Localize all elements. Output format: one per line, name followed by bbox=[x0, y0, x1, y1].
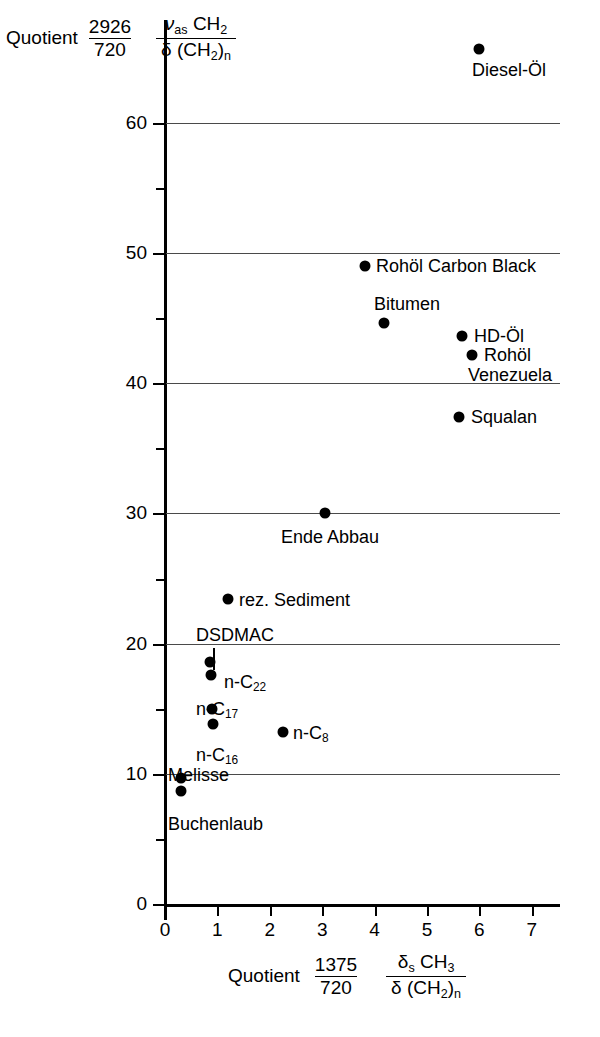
y-tick-major-40 bbox=[153, 383, 166, 385]
y-axis-symbol-numerator: νas CH2 bbox=[160, 14, 232, 38]
x-axis-denominator: 720 bbox=[315, 976, 357, 998]
y-axis-symbol-fraction: νas CH2 δ (CH2)n bbox=[156, 14, 236, 63]
point-label-rez-sediment: rez. Sediment bbox=[239, 590, 350, 610]
point-label-nc16-text: n-C bbox=[196, 745, 225, 765]
ch2-subscript: 2 bbox=[211, 48, 218, 62]
y-axis-number-fraction: 2926 720 bbox=[84, 17, 136, 60]
data-point bbox=[467, 349, 478, 360]
data-point bbox=[360, 261, 371, 272]
x-tick-2 bbox=[270, 904, 272, 916]
point-label-buchenlaub: Buchenlaub bbox=[168, 814, 263, 834]
point-label-bitumen: Bitumen bbox=[374, 294, 440, 314]
x-axis-number-fraction: 1375 720 bbox=[310, 955, 362, 998]
dsdmac-leader-line bbox=[213, 648, 215, 670]
data-point bbox=[277, 727, 288, 738]
ch2-open: (CH bbox=[407, 977, 441, 998]
point-label-squalan-text: Squalan bbox=[471, 407, 537, 427]
point-label-melisse: Melisse bbox=[168, 765, 229, 785]
data-point bbox=[319, 508, 330, 519]
point-label-nc8: n-C8 bbox=[293, 723, 329, 746]
x-axis-symbol-fraction: δs CH3 δ (CH2)n bbox=[386, 952, 466, 1001]
y-tick-minor-15 bbox=[156, 709, 166, 711]
ch-text: CH bbox=[420, 951, 447, 972]
y-tick-major-60 bbox=[153, 123, 166, 125]
x-tick-label-6: 6 bbox=[464, 919, 494, 941]
x-axis-line bbox=[164, 904, 560, 907]
x-axis-symbol-numerator: δs CH3 bbox=[393, 952, 460, 976]
ch-subscript: 2 bbox=[220, 23, 227, 37]
delta-symbol: δ bbox=[398, 951, 409, 972]
y-tick-minor-25 bbox=[156, 579, 166, 581]
s-subscript: s bbox=[408, 961, 414, 975]
point-label-nc22-text: n-C bbox=[224, 672, 253, 692]
n-subscript: n bbox=[454, 986, 461, 1000]
point-label-rez-sediment-text: rez. Sediment bbox=[239, 590, 350, 610]
point-label-rohoel-venezuela: Rohöl Venezuela bbox=[484, 345, 552, 385]
y-tick-major-30 bbox=[153, 513, 166, 515]
gridline-y-60 bbox=[165, 123, 560, 124]
point-label-nc8-text: n-C bbox=[293, 723, 322, 743]
point-label-rohoel-venezuela-line2: Venezuela bbox=[468, 365, 552, 385]
point-label-nc17: n-C17 bbox=[196, 699, 238, 722]
point-label-hd-oel: HD-Öl bbox=[474, 326, 524, 346]
point-label-nc22: n-C22 bbox=[224, 672, 266, 695]
data-point bbox=[453, 412, 464, 423]
y-tick-label-20: 20 bbox=[103, 633, 147, 655]
x-axis-quotient-word: Quotient bbox=[228, 965, 300, 987]
ch2-open: (CH bbox=[177, 39, 211, 60]
y-tick-minor-5 bbox=[156, 839, 166, 841]
delta-symbol: δ bbox=[391, 977, 402, 998]
point-label-nc22-subscript: 22 bbox=[253, 680, 266, 694]
point-label-diesel-text: Diesel-Öl bbox=[472, 60, 546, 80]
x-tick-0 bbox=[165, 904, 167, 916]
x-axis-title: Quotient 1375 720 δs CH3 δ (CH2)n bbox=[228, 952, 466, 1001]
x-tick-label-2: 2 bbox=[255, 919, 285, 941]
y-tick-label-60: 60 bbox=[103, 112, 147, 134]
y-tick-label-30: 30 bbox=[103, 502, 147, 524]
x-tick-3 bbox=[322, 904, 324, 916]
data-point bbox=[457, 331, 468, 342]
data-point bbox=[206, 669, 217, 680]
data-point bbox=[473, 43, 484, 54]
y-tick-major-10 bbox=[153, 774, 166, 776]
scatter-plot: Quotient 2926 720 νas CH2 δ (CH2)n Quoti… bbox=[0, 0, 600, 1037]
point-label-nc17-subscript: 17 bbox=[225, 707, 238, 721]
x-axis-numerator: 1375 bbox=[310, 955, 362, 976]
point-label-ende-abbau-text: Ende Abbau bbox=[281, 527, 379, 547]
ch-text: CH bbox=[193, 13, 220, 34]
n-subscript: n bbox=[224, 48, 231, 62]
x-tick-4 bbox=[375, 904, 377, 916]
nu-subscript: as bbox=[174, 23, 187, 37]
y-tick-label-0: 0 bbox=[103, 893, 147, 915]
x-tick-label-0: 0 bbox=[150, 919, 180, 941]
y-tick-label-40: 40 bbox=[103, 372, 147, 394]
x-tick-label-3: 3 bbox=[307, 919, 337, 941]
gridline-y-30 bbox=[165, 513, 560, 514]
x-tick-6 bbox=[479, 904, 481, 916]
point-label-diesel: Diesel-Öl bbox=[472, 60, 546, 80]
x-tick-5 bbox=[427, 904, 429, 916]
y-axis-line bbox=[164, 20, 167, 920]
point-label-hd-oel-text: HD-Öl bbox=[474, 326, 524, 346]
point-label-squalan: Squalan bbox=[471, 407, 537, 427]
x-tick-label-1: 1 bbox=[202, 919, 232, 941]
x-tick-1 bbox=[217, 904, 219, 916]
y-tick-label-10: 10 bbox=[103, 763, 147, 785]
point-label-nc8-subscript: 8 bbox=[322, 731, 329, 745]
gridline-y-50 bbox=[165, 253, 560, 254]
y-axis-denominator: 720 bbox=[89, 38, 131, 60]
data-point bbox=[379, 318, 390, 329]
x-tick-7 bbox=[532, 904, 534, 916]
point-label-nc17-text: n-C bbox=[196, 699, 225, 719]
y-axis-symbol-denominator: δ (CH2)n bbox=[156, 38, 236, 63]
point-label-bitumen-text: Bitumen bbox=[374, 294, 440, 314]
y-tick-minor-55 bbox=[156, 188, 166, 190]
point-label-rohoel-carbon-black: Rohöl Carbon Black bbox=[376, 256, 536, 276]
y-tick-label-50: 50 bbox=[103, 242, 147, 264]
x-axis-symbol-denominator: δ (CH2)n bbox=[386, 976, 466, 1001]
point-label-dsdmac-text: DSDMAC bbox=[196, 625, 274, 645]
point-label-dsdmac: DSDMAC bbox=[196, 625, 274, 645]
y-tick-major-20 bbox=[153, 644, 166, 646]
y-tick-minor-45 bbox=[156, 318, 166, 320]
point-label-rohoel-carbon-black-text: Rohöl Carbon Black bbox=[376, 256, 536, 276]
